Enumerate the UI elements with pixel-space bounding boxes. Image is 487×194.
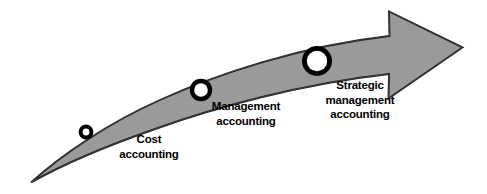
arrow-graphic bbox=[0, 0, 487, 194]
stage-label-line-1: Strategic bbox=[310, 78, 410, 93]
stage-label-management-accounting: Management accounting bbox=[194, 99, 298, 128]
stage-label-line-1: Management bbox=[194, 99, 298, 114]
stage-label-line-2: accounting bbox=[194, 114, 298, 129]
stage-marker-large bbox=[302, 46, 332, 76]
stage-label-line-2: management bbox=[310, 93, 410, 108]
stage-label-strategic-management-accounting: Strategic management accounting bbox=[310, 78, 410, 122]
stage-label-line-2: accounting bbox=[106, 147, 192, 162]
stage-label-line-1: Cost bbox=[106, 132, 192, 147]
stage-label-line-3: accounting bbox=[310, 107, 410, 122]
stage-marker-medium bbox=[190, 79, 212, 101]
stage-marker-small bbox=[79, 125, 94, 140]
stage-label-cost-accounting: Cost accounting bbox=[106, 132, 192, 161]
diagram-canvas: Cost accounting Management accounting St… bbox=[0, 0, 487, 194]
